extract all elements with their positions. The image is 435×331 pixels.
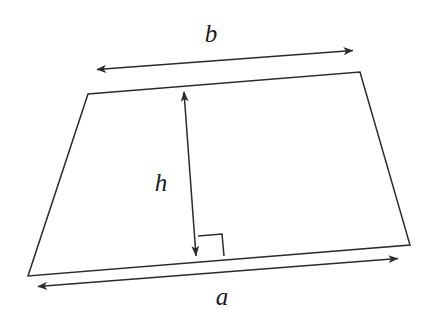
geometry-figure: b h a: [0, 0, 435, 331]
top-base-measure-arrow: [97, 51, 353, 70]
top-base-label: b: [205, 20, 218, 47]
bottom-base-label: a: [216, 283, 229, 310]
right-angle-marker: [198, 234, 224, 256]
trapezoid-outline: [28, 72, 410, 276]
height-arrow: [184, 92, 196, 256]
trapezoid-diagram-canvas: b h a: [0, 0, 435, 331]
height-label: h: [155, 169, 168, 196]
